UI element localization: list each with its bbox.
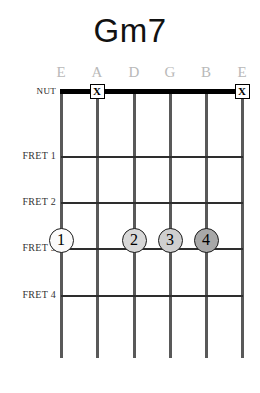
finger-dot-2: 2 [122, 228, 147, 253]
fretboard: NUTFRET 1FRET 2FRET 3FRET 4XX1234 [0, 0, 260, 393]
fret-label-1: FRET 1 [8, 150, 56, 162]
finger-dot-4: 4 [194, 228, 219, 253]
fret-label-4: FRET 4 [8, 289, 56, 301]
fret-line-2 [61, 202, 243, 204]
fret-line-4 [61, 295, 243, 297]
mute-marker-string-high-e: X [235, 84, 250, 99]
chord-diagram: Gm7 EADGBE NUTFRET 1FRET 2FRET 3FRET 4XX… [0, 0, 260, 393]
string-line-6 [241, 91, 244, 358]
mute-marker-string-a: X [90, 84, 105, 99]
finger-dot-3: 3 [158, 228, 183, 253]
string-line-2 [96, 91, 99, 358]
string-line-1 [60, 91, 63, 358]
nut-line [60, 89, 244, 94]
finger-dot-1: 1 [49, 228, 74, 253]
string-line-3 [133, 91, 136, 358]
string-line-4 [169, 91, 172, 358]
nut-label: NUT [8, 85, 56, 97]
string-line-5 [205, 91, 208, 358]
fret-line-1 [61, 156, 243, 158]
fret-label-2: FRET 2 [8, 196, 56, 208]
